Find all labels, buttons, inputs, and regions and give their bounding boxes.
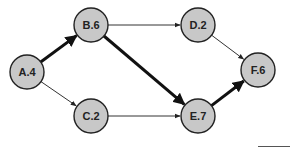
node-label: E.7 (190, 110, 207, 122)
node-label: A.4 (18, 66, 36, 78)
node-label: B.6 (82, 19, 99, 31)
edge-a-to-b (41, 36, 77, 62)
node-f: F.6 (241, 53, 275, 87)
node-label: C.2 (82, 110, 99, 122)
node-c: C.2 (74, 99, 108, 133)
edge-d-to-f (212, 35, 244, 59)
node-e: E.7 (181, 99, 215, 133)
node-label: D.2 (189, 19, 206, 31)
edge-e-to-f (211, 81, 243, 106)
node-b: B.6 (74, 8, 108, 42)
node-a: A.4 (10, 55, 44, 89)
node-label: F.6 (251, 64, 266, 76)
node-d: D.2 (181, 8, 215, 42)
edge-a-to-c (41, 82, 76, 106)
edge-b-to-e (104, 36, 184, 104)
edges-group (41, 25, 244, 116)
network-diagram: A.4B.6C.2D.2E.7F.6 (0, 0, 294, 148)
